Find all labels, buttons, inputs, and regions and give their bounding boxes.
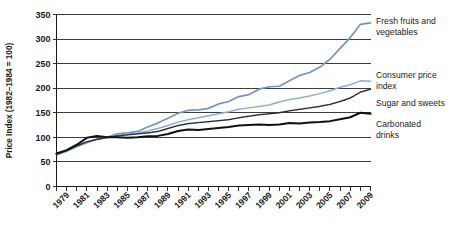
x-tick-label: 1991 bbox=[172, 190, 193, 211]
legend-label-line2: vegetables bbox=[376, 27, 418, 37]
x-tick-label: 1999 bbox=[253, 190, 274, 211]
series-line-0 bbox=[57, 23, 371, 155]
axis-lines bbox=[57, 15, 371, 187]
y-tick-label: 250 bbox=[35, 59, 50, 69]
legend-label-line1: Fresh fruits and bbox=[376, 16, 436, 26]
x-tick-label: 2003 bbox=[294, 190, 315, 211]
legend-label-line1: Sugar and sweets bbox=[376, 98, 445, 108]
x-tick-label: 1979 bbox=[51, 190, 72, 211]
legend: Fresh fruits andvegetablesConsumer price… bbox=[376, 16, 445, 140]
y-axis-title: Price Index (1982–1984 = 100) bbox=[5, 43, 14, 159]
y-tick-label: 100 bbox=[35, 133, 50, 143]
legend-label-line1: Consumer price bbox=[376, 70, 437, 80]
x-tick-label: 1981 bbox=[71, 190, 92, 211]
x-axis-ticks: 1979198119831985198719891991199319951997… bbox=[51, 187, 376, 211]
y-tick-label: 0 bbox=[45, 182, 50, 192]
x-tick-label: 1997 bbox=[233, 190, 254, 211]
y-tick-label: 350 bbox=[35, 10, 50, 20]
legend-label-line1: Carbonated bbox=[376, 119, 421, 129]
y-tick-label: 200 bbox=[35, 83, 50, 93]
series-line-3 bbox=[57, 113, 371, 154]
x-tick-label: 1989 bbox=[152, 190, 173, 211]
y-tick-label: 50 bbox=[40, 157, 50, 167]
x-tick-label: 1995 bbox=[213, 190, 234, 211]
line-chart: 050100150200250300350 197919811983198519… bbox=[0, 0, 454, 235]
x-tick-label: 1993 bbox=[192, 190, 213, 211]
legend-label-line2: drinks bbox=[376, 130, 399, 140]
y-tick-label: 300 bbox=[35, 34, 50, 44]
y-axis-ticks: 050100150200250300350 bbox=[35, 10, 56, 192]
chart-figure: 050100150200250300350 197919811983198519… bbox=[0, 0, 454, 235]
series-line-1 bbox=[57, 81, 371, 155]
y-axis-title-text: Price Index (1982–1984 = 100) bbox=[5, 43, 14, 159]
legend-label-line2: index bbox=[376, 81, 397, 91]
y-tick-label: 150 bbox=[35, 108, 50, 118]
x-tick-label: 1987 bbox=[132, 190, 153, 211]
x-tick-label: 2001 bbox=[273, 190, 294, 211]
x-tick-label: 2009 bbox=[355, 190, 376, 211]
data-series bbox=[57, 23, 371, 155]
x-tick-label: 1983 bbox=[91, 190, 112, 211]
x-tick-label: 1985 bbox=[111, 190, 132, 211]
x-tick-label: 2005 bbox=[314, 190, 335, 211]
gridlines bbox=[57, 15, 371, 187]
x-tick-label: 2007 bbox=[334, 190, 355, 211]
